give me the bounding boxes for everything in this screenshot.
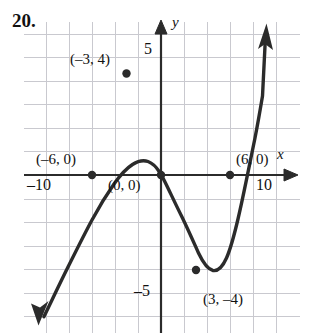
point-6-0 [226,171,234,179]
x-axis-label: x [277,147,284,162]
point-label-minus3-4: (–3, 4) [70,52,110,67]
y-axis-arrowhead [155,20,167,34]
point-label-0-0: (0, 0) [108,178,141,193]
y-axis-label: y [172,15,179,30]
point-label-6-0: (6, 0) [236,152,269,167]
figure-root: 20. [0,0,310,335]
y-tick-label-5: 5 [144,41,152,57]
graph-canvas [0,0,310,335]
point-label-3-minus4: (3, –4) [203,292,243,307]
point-0-0 [157,171,165,179]
point-minus3-4 [122,69,130,77]
x-axis-arrowhead [284,169,298,181]
point-label-minus6-0: (–6, 0) [36,152,76,167]
x-tick-label-10: 10 [256,177,272,193]
point-3-minus4 [192,266,200,274]
x-tick-label-minus10: –10 [27,177,51,193]
y-tick-label-minus5: –5 [134,283,150,299]
point-minus6-0 [88,171,96,179]
